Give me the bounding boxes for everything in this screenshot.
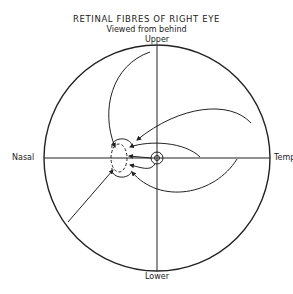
papillomacular-upper	[130, 143, 200, 157]
retina-diagram	[0, 0, 293, 294]
lower-nasal-fibre	[68, 170, 113, 222]
upper-temporal-fibre	[137, 109, 251, 140]
papillomacular-lower	[130, 164, 155, 168]
lower-temporal-fibre	[132, 159, 237, 192]
upper-nasal-fibre	[109, 52, 150, 147]
